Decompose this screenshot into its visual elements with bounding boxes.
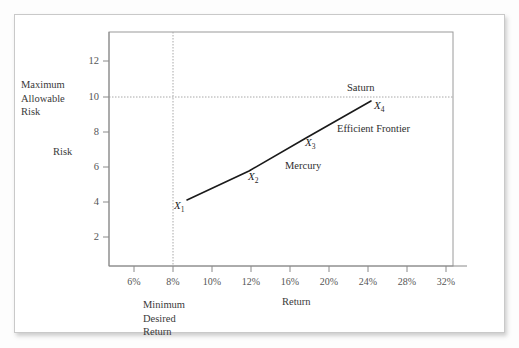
data-point-label-x2: X2: [248, 170, 258, 186]
min-desired-return-callout: Minimum Desired Return: [143, 298, 185, 339]
x-tick-label-16pct: 16%: [275, 276, 305, 288]
max-allowable-risk-callout: Maximum Allowable Risk: [21, 78, 65, 119]
annotation-saturn: Saturn: [347, 82, 374, 94]
data-point-label-x1: X1: [174, 199, 184, 215]
y-tick-label-4: 4: [71, 196, 99, 208]
efficient-frontier-chart: 12 10 8 6 4 2 6% 8% 10% 12% 16% 20% 24% …: [15, 15, 506, 334]
x-tick-label-28pct: 28%: [392, 276, 422, 288]
y-tick-label-10: 10: [71, 91, 99, 103]
data-point-label-x4: X4: [374, 99, 384, 115]
chart-card: 12 10 8 6 4 2 6% 8% 10% 12% 16% 20% 24% …: [14, 14, 505, 333]
x-tick-label-10pct: 10%: [197, 276, 227, 288]
y-axis-title: Risk: [53, 146, 72, 158]
x-tick-label-8pct: 8%: [158, 276, 188, 288]
annotation-mercury: Mercury: [285, 160, 321, 172]
y-tick-label-12: 12: [71, 55, 99, 67]
y-tick-label-6: 6: [71, 161, 99, 173]
y-axis-ticks: [103, 61, 109, 237]
x-tick-label-32pct: 32%: [431, 276, 461, 288]
screenshot-root: 12 10 8 6 4 2 6% 8% 10% 12% 16% 20% 24% …: [0, 0, 519, 348]
annotation-efficient-frontier: Efficient Frontier: [337, 123, 410, 135]
plot-frame: [109, 32, 453, 266]
x-axis-title: Return: [282, 296, 311, 308]
x-tick-label-20pct: 20%: [314, 276, 344, 288]
x-tick-label-6pct: 6%: [119, 276, 149, 288]
y-tick-label-2: 2: [71, 231, 99, 243]
x-axis-ticks: [134, 266, 446, 272]
x-tick-label-12pct: 12%: [236, 276, 266, 288]
y-tick-label-8: 8: [71, 126, 99, 138]
data-point-label-x3: X3: [305, 136, 315, 152]
x-tick-label-24pct: 24%: [353, 276, 383, 288]
